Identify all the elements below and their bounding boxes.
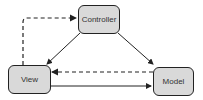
model-label: Model xyxy=(163,77,185,86)
controller-label: Controller xyxy=(82,15,117,24)
controller-node: Controller xyxy=(78,5,120,34)
edge-controller-to-view xyxy=(47,33,80,64)
model-node: Model xyxy=(153,67,194,96)
edge-view-to-controller xyxy=(23,18,76,65)
edge-controller-to-model xyxy=(118,33,153,64)
view-label: View xyxy=(21,75,38,84)
view-node: View xyxy=(8,65,51,94)
